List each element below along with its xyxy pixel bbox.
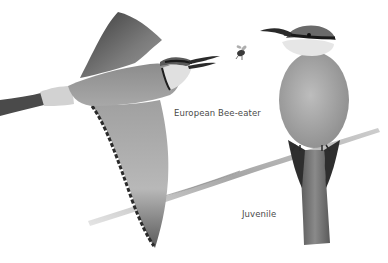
caption-juvenile: Juvenile: [242, 209, 276, 219]
bee: [236, 45, 247, 60]
bee-eater-illustration: [0, 0, 388, 263]
flying-bee-eater: [0, 12, 220, 248]
caption-european-bee-eater: European Bee-eater: [174, 108, 261, 118]
